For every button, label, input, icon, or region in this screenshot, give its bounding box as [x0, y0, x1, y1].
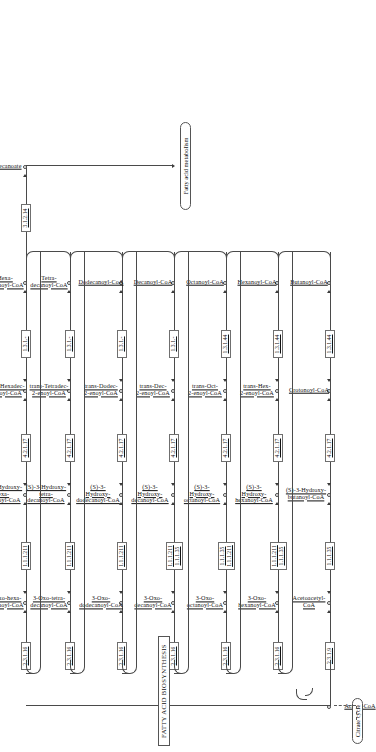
arrow-head-icon	[275, 379, 279, 382]
label-decanoyl-acyl-coa[interactable]: Decanoyl-CoA	[134, 279, 173, 286]
pathway-diagram-stage: 2.3.1.9Acetoacetyl-CoA1.1.1.35(S)-3-Hydr…	[0, 0, 376, 752]
loop-elbow	[174, 251, 182, 259]
loop-return-hexanoyl	[240, 252, 241, 667]
pathway-map-canvas: 2.3.1.9Acetoacetyl-CoA1.1.1.35(S)-3-Hydr…	[0, 0, 376, 752]
label-hexadecanoyl-acyl-coa[interactable]: Hexa-decanoyl-CoA	[0, 275, 24, 288]
arrow-head-icon	[67, 290, 71, 293]
enzyme-hexanoyl-reductase[interactable]: 1.1.1.2111.1.1.35	[270, 542, 287, 570]
label-hexadecanoate[interactable]: Hexadecanoate	[0, 163, 22, 170]
loop-elbow	[278, 251, 286, 259]
enzyme-butanoyl-enoyl-reductase[interactable]: 1.3.1.44	[325, 330, 335, 358]
loop-elbow	[226, 251, 234, 259]
enzyme-thioesterase[interactable]: 3.1.2.14	[21, 204, 31, 232]
label-octanoyl-enoyl[interactable]: trans-Oct-2-enoyl-CoA	[188, 383, 222, 396]
citrate-cycle-dashed-riser	[334, 705, 356, 706]
loop-elbow	[233, 666, 241, 674]
label-decanoyl-enoyl[interactable]: trans-Dec-2-enoyl-CoA	[136, 383, 170, 396]
arrow-head-icon	[171, 379, 175, 382]
label-hexadecanoyl-3-oxo[interactable]: 3-Oxo-hexa-decanoyl-CoA	[0, 595, 24, 608]
arrow-head-icon	[223, 591, 227, 594]
arrow-head-icon	[327, 398, 331, 401]
compound-octanoyl-3-hydroxy[interactable]	[223, 493, 227, 497]
label-hexanoyl-acyl-coa[interactable]: Hexanoyl-CoA	[237, 279, 276, 286]
compound-butanoyl-3-oxo[interactable]	[327, 601, 331, 605]
arrow-head-icon	[327, 483, 331, 486]
arrow-head-icon	[327, 610, 331, 613]
enzyme-decanoyl-enoyl-reductase[interactable]: 1.3.1.-	[169, 330, 179, 358]
label-hexanoyl-enoyl[interactable]: trans-Hex-2-enoyl-CoA	[240, 383, 274, 396]
citrate-cycle-dashed-run	[356, 706, 357, 720]
enzyme-dodecanoyl-reductase[interactable]: 1.1.1.211	[117, 542, 127, 570]
enzyme-tetradecanoyl-dehydratase[interactable]: 4.2.1.17	[65, 434, 75, 462]
loop-riser-tetradecanoyl	[33, 251, 63, 252]
compound-octanoyl-enoyl[interactable]	[223, 389, 227, 393]
compound-hexanoyl-enoyl[interactable]	[275, 389, 279, 393]
label-hexadecanoyl-enoyl[interactable]: trans-Hexadec-2-enoyl-CoA	[0, 383, 25, 396]
enzyme-octanoyl-dehydratase[interactable]: 4.2.1.17	[221, 434, 231, 462]
enzyme-octanoyl-reductase[interactable]: 1.1.1.351.1.1.211	[218, 542, 235, 570]
enzyme-hexadecanoyl-enoyl-reductase[interactable]: 1.3.1.-	[21, 330, 31, 358]
arrow-head-icon	[23, 610, 27, 613]
compound-octanoyl-3-oxo[interactable]	[223, 601, 227, 605]
loop-elbow	[122, 251, 130, 259]
label-octanoyl-3-hydroxy[interactable]: (S)-3-Hydroxy-octanoyl-CoA	[184, 484, 220, 504]
arrow-head-icon	[223, 398, 227, 401]
compound-tetradecanoyl-3-hydroxy[interactable]	[67, 493, 71, 497]
arrow-head-icon	[23, 290, 27, 293]
label-dodecanoyl-enoyl[interactable]: trans-Dodec-2-enoyl-CoA	[84, 383, 118, 396]
label-octanoyl-acyl-coa[interactable]: Octanoyl-CoA	[186, 279, 224, 286]
loop-return-dodecanoyl	[84, 252, 85, 667]
compound-dodecanoyl-enoyl[interactable]	[119, 389, 123, 393]
label-hexadecanoyl-3-hydroxy[interactable]: (S)-3-Hydroxy-hexa-decanoyl-CoA	[0, 484, 22, 504]
enzyme-hexadecanoyl-dehydratase[interactable]: 4.2.1.17	[21, 434, 31, 462]
loop-riser-butanoyl	[285, 251, 323, 252]
label-tetradecanoyl-enoyl[interactable]: trans-Tetradec-2-enoyl-CoA	[30, 383, 69, 396]
label-octanoyl-3-oxo[interactable]: 3-Oxo-octanoyl-CoA	[187, 595, 223, 608]
label-dodecanoyl-3-hydroxy[interactable]: (S)-3-Hydroxy-dodecanoyl-CoA	[76, 484, 120, 504]
arrow-head-icon	[171, 290, 175, 293]
arrow-head-icon	[171, 502, 175, 505]
label-tetradecanoyl-3-oxo[interactable]: 3-Oxo-tetra-decanoyl-CoA	[30, 595, 67, 608]
compound-hexadecanoyl-3-hydroxy[interactable]	[23, 493, 27, 497]
product-outlet-decanoyl	[174, 252, 175, 282]
label-tetradecanoyl-acyl-coa[interactable]: Tetra-decanoyl-CoA	[30, 275, 67, 288]
pathway-link-fatty-acid-metabolism[interactable]: Fatty acid metabolism	[180, 122, 191, 210]
label-hexanoyl-3-oxo[interactable]: 3-Oxo-hexanoyl-CoA	[238, 595, 276, 608]
arrow-head-icon	[119, 379, 123, 382]
enzyme-butanoyl-dehydratase[interactable]: 4.2.1.17	[325, 434, 335, 462]
compound-decanoyl-3-hydroxy[interactable]	[171, 493, 175, 497]
loop-elbow	[285, 666, 293, 674]
enzyme-hexanoyl-enoyl-reductase[interactable]: 1.3.1.44	[273, 330, 283, 358]
enzyme-hexadecanoyl-reductase[interactable]: 1.1.1.211	[21, 542, 31, 570]
enzyme-decanoyl-reductase[interactable]: 1.1.1.2111.1.1.35	[166, 542, 183, 570]
enzyme-octanoyl-enoyl-reductase[interactable]: 1.3.1.44	[221, 330, 231, 358]
arrow-head-icon	[327, 379, 331, 382]
label-butanoyl-3-oxo[interactable]: Acetoacetyl-CoA	[293, 595, 326, 608]
label-tetradecanoyl-3-hydroxy[interactable]: (S)-3-Hydroxy-tetra-decanoyl-CoA	[26, 484, 66, 504]
enzyme-hexanoyl-dehydratase[interactable]: 4.2.1.17	[273, 434, 283, 462]
arrow-head-icon	[67, 610, 71, 613]
arrow-head-icon	[275, 610, 279, 613]
arrow-head-icon	[119, 610, 123, 613]
label-butanoyl-acyl-coa[interactable]: Butanoyl-CoA	[290, 279, 328, 286]
label-decanoyl-3-oxo[interactable]: 3-Oxo-decanoyl-CoA	[134, 595, 171, 608]
compound-hexanoyl-3-hydroxy[interactable]	[275, 493, 279, 497]
compound-decanoyl-enoyl[interactable]	[171, 389, 175, 393]
enzyme-tetradecanoyl-reductase[interactable]: 1.1.1.211	[65, 542, 75, 570]
enzyme-decanoyl-dehydratase[interactable]: 4.2.1.17	[169, 434, 179, 462]
enzyme-butanoyl-reductase[interactable]: 1.1.1.35	[325, 542, 335, 570]
arrow-head-icon	[223, 483, 227, 486]
enzyme-dodecanoyl-dehydratase[interactable]: 4.2.1.17	[117, 434, 127, 462]
label-dodecanoyl-acyl-coa[interactable]: Dodecanoyl-CoA	[78, 279, 123, 286]
enzyme-tetradecanoyl-enoyl-reductase[interactable]: 1.3.1.-	[65, 330, 75, 358]
loop-riser-hexanoyl	[233, 251, 271, 252]
arrow-head-icon	[67, 483, 71, 486]
arrow-head-icon	[67, 591, 71, 594]
arrow-head-icon	[327, 591, 331, 594]
label-dodecanoyl-3-oxo[interactable]: 3-Oxo-dodecanoyl-CoA	[79, 595, 123, 608]
compound-butanoyl-3-hydroxy[interactable]	[327, 493, 331, 497]
seed-elbow	[296, 689, 307, 700]
label-butanoyl-enoyl[interactable]: Crotonoyl-CoA	[289, 387, 329, 394]
arrow-head-icon	[275, 398, 279, 401]
enzyme-dodecanoyl-enoyl-reductase[interactable]: 1.3.1.-	[117, 330, 127, 358]
